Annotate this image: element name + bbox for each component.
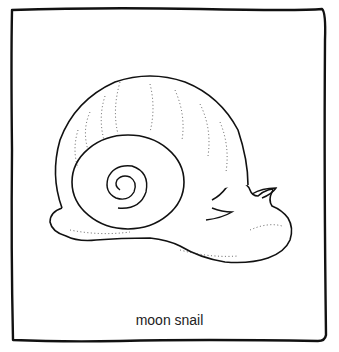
caption: moon snail [0, 312, 339, 328]
snail-illustration [0, 0, 339, 352]
shell-whorl [72, 135, 184, 229]
